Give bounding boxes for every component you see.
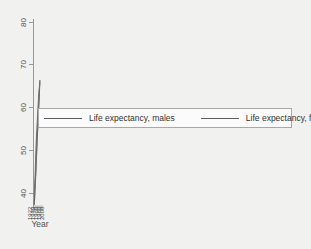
y-tick-label-60: 60 [19,100,28,116]
legend-entry-males: Life expectancy, males [44,109,175,127]
legend-line-swatch-females [201,118,239,119]
y-tick-label-70: 70 [19,57,28,73]
life-expectancy-chart: 80 70 60 50 40 1922 1940 1960 1980 2000 … [0,0,311,249]
x-axis-title: Year [23,219,57,229]
legend-entry-females: Life expectancy, females [201,109,311,127]
legend-label-females: Life expectancy, females [246,113,311,123]
y-tick-label-80: 80 [19,15,28,31]
legend-label-males: Life expectancy, males [89,113,175,123]
chart-legend: Life expectancy, males Life expectancy, … [38,108,292,128]
y-tick-marks [29,23,34,194]
x-tick-label-4: 2000 [39,207,45,220]
series-density-band [34,81,39,204]
x-tick-label-band: 1922 1940 1960 1980 2000 [24,206,54,220]
y-tick-label-50: 50 [19,143,28,159]
legend-line-swatch-males [44,118,82,119]
y-tick-label-40: 40 [19,186,28,202]
